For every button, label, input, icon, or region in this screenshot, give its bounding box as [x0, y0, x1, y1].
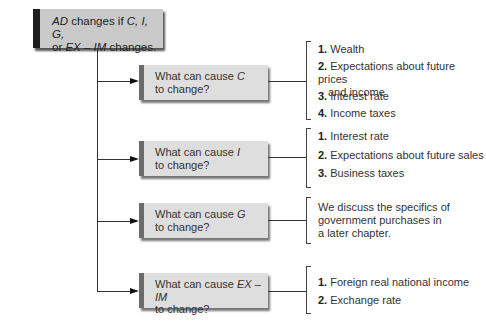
question-node-g: What can cause Gto change?	[139, 203, 268, 238]
list-item: 4. Income taxes	[318, 107, 396, 120]
question-node-i: What can cause Ito change?	[139, 141, 268, 176]
q-prefix: What can cause	[155, 70, 237, 82]
list-item: 1. Foreign real national income	[318, 276, 469, 289]
answer-connector-g	[268, 220, 306, 221]
question-node-c: What can cause Cto change?	[139, 65, 268, 100]
arrow-icon	[130, 288, 139, 294]
q-var: I	[237, 146, 240, 158]
list-item: 3. Business taxes	[318, 167, 404, 180]
q-suffix: to change?	[155, 303, 209, 315]
list-item: 2. Exchange rate	[318, 294, 401, 307]
root-text-3: changes.	[106, 41, 156, 53]
question-node-exim: What can cause EX – IMto change?	[139, 273, 268, 308]
note-text: We discuss the specifics ofgovernment pu…	[318, 201, 450, 240]
q-var: C	[237, 70, 245, 82]
list-item: 1. Wealth	[318, 43, 364, 56]
root-text-2: or	[52, 41, 65, 53]
root-text-1: changes if	[68, 15, 127, 27]
branch-connector-g	[97, 221, 133, 222]
list-item: 1. Interest rate	[318, 130, 389, 143]
branch-connector-c	[97, 81, 133, 82]
arrow-icon	[130, 78, 139, 84]
list-item: 3. Interest rate	[318, 90, 389, 103]
q-prefix: What can cause	[155, 208, 237, 220]
bracket-g	[306, 197, 311, 244]
bracket-c	[306, 41, 311, 120]
answer-connector-c	[268, 81, 306, 82]
q-prefix: What can cause	[155, 278, 237, 290]
q-suffix: to change?	[155, 83, 209, 95]
trunk-connector	[97, 48, 98, 291]
branch-connector-exim	[97, 291, 133, 292]
exim-var: EX – IM	[65, 41, 106, 53]
q-var: G	[237, 208, 246, 220]
bracket-i	[306, 128, 311, 188]
q-prefix: What can cause	[155, 146, 237, 158]
arrow-icon	[130, 156, 139, 162]
answer-connector-exim	[268, 291, 306, 292]
q-suffix: to change?	[155, 221, 209, 233]
branch-connector-i	[97, 159, 133, 160]
root-label: AD changes if C, I, G, or EX – IM change…	[40, 9, 163, 54]
arrow-icon	[130, 218, 139, 224]
root-node: AD changes if C, I, G, or EX – IM change…	[33, 9, 163, 48]
list-item: 2. Expectations about future sales	[318, 149, 484, 162]
answer-connector-i	[268, 157, 306, 158]
ad-var: AD	[52, 15, 68, 27]
q-suffix: to change?	[155, 159, 209, 171]
bracket-exim	[306, 266, 311, 314]
